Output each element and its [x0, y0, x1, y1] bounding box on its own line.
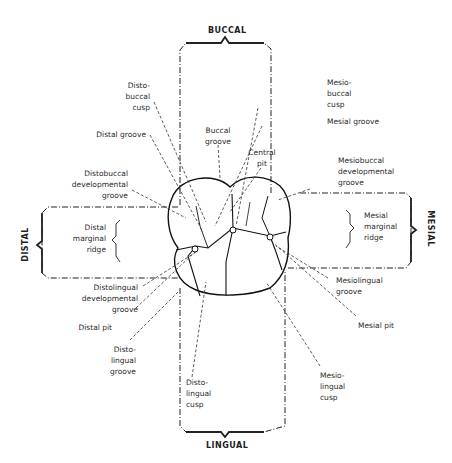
label-distal-marginal-ridge: Distal marginal ridge — [62, 222, 106, 255]
distal-pit-marker — [192, 246, 198, 252]
label-mesial-pit: Mesial pit — [358, 320, 394, 331]
label-buccal-groove: Buccal groove — [200, 125, 236, 147]
label-mesial-marginal-ridge: Mesial marginal ridge — [364, 210, 397, 243]
distal-label: DISTAL — [21, 227, 30, 262]
label-disto-lingual-cusp: Disto- lingual cusp — [186, 377, 211, 410]
label-disto-lingual-groove: Disto- lingual groove — [100, 344, 136, 377]
label-disto-buccal-cusp: Disto- buccal cusp — [118, 80, 150, 113]
label-mesial-groove: Mesial groove — [327, 116, 379, 127]
mesial-pit-marker — [267, 234, 273, 240]
label-mesiolingual-groove: Mesiolingual groove — [336, 275, 383, 297]
label-mesiobuccal-developmental-groove: Mesiobuccal developmental groove — [338, 155, 394, 188]
label-central-pit: Central pit — [244, 147, 280, 169]
label-distobuccal-developmental-groove: Distobuccal developmental groove — [60, 168, 128, 201]
buccal-label: BUCCAL — [208, 26, 247, 35]
label-distolingual-developmental-groove: Distolingual developmental groove — [66, 282, 138, 315]
mesial-label: MESIAL — [426, 210, 435, 246]
lingual-label: LINGUAL — [206, 441, 248, 450]
label-distal-pit: Distal pit — [68, 322, 112, 333]
label-mesio-lingual-cusp: Mesio- lingual cusp — [320, 370, 345, 403]
label-distal-groove: Distal groove — [84, 129, 146, 140]
label-mesio-buccal-cusp: Mesio- buccal cusp — [327, 77, 352, 110]
central-pit-marker — [230, 227, 236, 233]
